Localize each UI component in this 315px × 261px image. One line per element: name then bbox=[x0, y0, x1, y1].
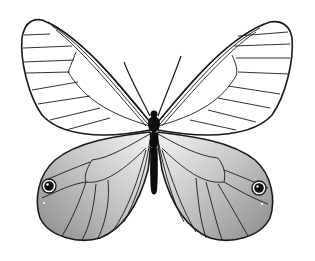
butterfly-drawing bbox=[0, 0, 315, 261]
left-hindwing bbox=[37, 132, 150, 240]
right-hindwing bbox=[157, 132, 272, 240]
right-forewing bbox=[158, 22, 292, 135]
butterfly-illustration bbox=[0, 0, 315, 261]
